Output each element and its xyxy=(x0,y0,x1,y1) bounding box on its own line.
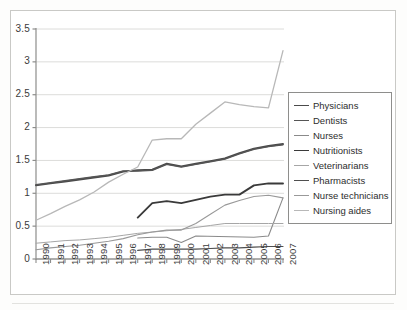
x-tick-label: 2002 xyxy=(214,243,225,265)
legend-label: Veterinarians xyxy=(313,160,368,171)
legend-row: Nursing aides xyxy=(293,203,387,218)
legend-row: Dentists xyxy=(293,113,387,128)
legend-row: Physicians xyxy=(293,98,387,113)
x-tick-label: 1993 xyxy=(84,243,95,265)
x-tick-label: 2006 xyxy=(272,243,283,265)
legend-label: Nurses xyxy=(313,130,343,141)
chart-legend: PhysiciansDentistsNursesNutritionistsVet… xyxy=(288,92,392,224)
legend-line-swatch xyxy=(294,165,309,166)
x-tick-label: 1996 xyxy=(127,243,138,265)
x-tick-label: 2005 xyxy=(258,243,269,265)
legend-row: Nurse technicians xyxy=(293,188,387,203)
legend-line-swatch xyxy=(294,135,309,136)
y-tick-label: 0.5 xyxy=(4,220,30,231)
y-tick-label: 2 xyxy=(4,121,30,132)
y-tick-label: 0 xyxy=(4,253,30,264)
legend-label: Nurse technicians xyxy=(313,190,389,201)
x-tick-label: 2004 xyxy=(243,243,254,265)
legend-row: Nutritionists xyxy=(293,143,387,158)
x-tick-label: 1990 xyxy=(40,243,51,265)
x-tick-label: 1992 xyxy=(69,243,80,265)
legend-label: Pharmacists xyxy=(313,175,365,186)
legend-line-swatch xyxy=(294,150,309,151)
legend-row: Pharmacists xyxy=(293,173,387,188)
x-tick-label: 1997 xyxy=(142,243,153,265)
legend-line-swatch xyxy=(294,195,309,196)
series-line-nutritionists xyxy=(138,183,283,217)
y-tick-label: 1.5 xyxy=(4,154,30,165)
legend-label: Nursing aides xyxy=(313,205,371,216)
x-tick-label: 2001 xyxy=(200,243,211,265)
series-line-nursing-aides xyxy=(36,51,283,221)
x-tick-label: 2000 xyxy=(185,243,196,265)
y-tick-label: 1 xyxy=(4,187,30,198)
x-tick-label: 2003 xyxy=(229,243,240,265)
x-tick-label: 1995 xyxy=(113,243,124,265)
legend-line-swatch xyxy=(294,120,309,121)
legend-label: Nutritionists xyxy=(313,145,363,156)
legend-line-swatch xyxy=(294,105,309,106)
y-tick-label: 3 xyxy=(4,55,30,66)
legend-line-swatch xyxy=(294,180,309,181)
legend-row: Nurses xyxy=(293,128,387,143)
chart-figure: 00.511.522.533.5 19901991199219931994199… xyxy=(0,0,407,310)
y-tick-label: 3.5 xyxy=(4,23,30,34)
series-line-nurses xyxy=(138,198,283,243)
legend-line-swatch xyxy=(294,210,309,211)
x-tick-label: 1998 xyxy=(156,243,167,265)
x-tick-label: 1991 xyxy=(55,243,66,265)
legend-row: Veterinarians xyxy=(293,158,387,173)
y-tick-label: 2.5 xyxy=(4,88,30,99)
legend-label: Dentists xyxy=(313,115,347,126)
legend-label: Physicians xyxy=(313,100,358,111)
x-tick-label: 2007 xyxy=(287,243,298,265)
x-tick-label: 1999 xyxy=(171,243,182,265)
x-tick-label: 1994 xyxy=(98,243,109,265)
figure-bottom-rule xyxy=(12,303,394,304)
